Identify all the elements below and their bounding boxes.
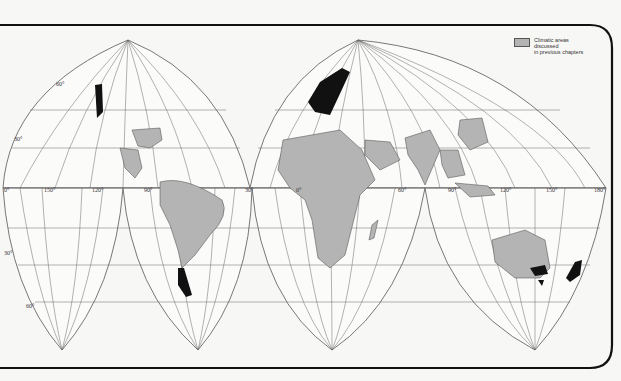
map-legend: Climatic areas discussed in previous cha… bbox=[514, 37, 594, 55]
lat-label-30n: 30° bbox=[14, 136, 23, 142]
lon-label-150e: 150° bbox=[546, 187, 558, 193]
legend-label: Climatic areas discussed in previous cha… bbox=[534, 37, 594, 55]
lat-label-30s: 30° bbox=[4, 250, 13, 256]
legend-label-line1: Climatic areas discussed bbox=[534, 37, 594, 49]
lon-label-30w: 30° bbox=[245, 187, 254, 193]
legend-label-line2: in previous chapters bbox=[534, 49, 594, 55]
legend-swatch bbox=[514, 38, 530, 47]
lat-label-60s: 60° bbox=[26, 303, 35, 309]
lon-label-60e: 60° bbox=[398, 187, 407, 193]
lon-label-90e: 90° bbox=[448, 187, 457, 193]
lat-label-60n: 60° bbox=[56, 81, 65, 87]
lon-label-0: 0° bbox=[296, 187, 302, 193]
lon-label-120w: 120° bbox=[92, 187, 104, 193]
lon-label-150w: 150° bbox=[44, 187, 56, 193]
lon-label-90w: 90° bbox=[144, 187, 153, 193]
lon-label-180: 180° bbox=[594, 187, 606, 193]
lat-label-0: 0° bbox=[4, 187, 10, 193]
lon-label-120e: 120° bbox=[500, 187, 512, 193]
world-map: 150° 120° 90° 30° 0° 60° 90° 120° 150° 1… bbox=[0, 0, 621, 381]
